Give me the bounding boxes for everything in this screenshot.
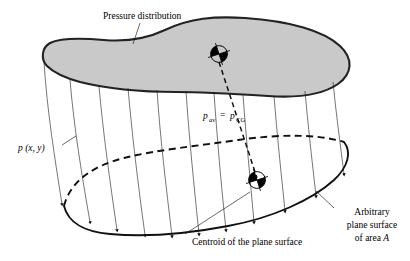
pressure-line <box>186 91 199 234</box>
arbitrary-plane-area-prefix: of area <box>355 233 383 243</box>
plane-surface-hidden-edge <box>64 136 344 206</box>
pressure-line <box>99 86 117 230</box>
pressure-line <box>243 95 254 222</box>
pressure-distribution-diagram: Pressure distribution p (x, y) p av = p … <box>0 0 410 261</box>
p-cg-symbol: p <box>229 111 235 121</box>
pressure-line <box>70 80 90 222</box>
arbitrary-plane-line1: Arbitrary <box>354 207 390 217</box>
pressure-field-label: p (x, y) <box>17 143 45 154</box>
pressure-line <box>157 90 172 236</box>
pressure-line <box>333 82 344 174</box>
arbitrary-plane-line2: plane surface <box>347 220 397 230</box>
p-av-symbol: p <box>202 111 208 121</box>
pressure-distribution-label: Pressure distribution <box>103 11 182 21</box>
pressure-line <box>44 62 62 204</box>
p-av-subscript: av <box>209 116 215 123</box>
p-av-equals-p-cg-label: p av = p CG <box>202 110 245 122</box>
pressure-line <box>274 96 285 211</box>
pressure-line <box>128 88 145 235</box>
centroid-caption-label: Centroid of the plane surface <box>192 237 302 247</box>
pressure-line <box>305 91 316 196</box>
pressure-field-text: p (x, y) <box>17 143 45 154</box>
arbitrary-plane-line3: of area A <box>355 233 389 243</box>
pressure-blob-shape <box>43 17 350 96</box>
arbitrary-plane-area-symbol: A <box>382 233 389 243</box>
p-cg-subscript: CG <box>236 116 245 123</box>
centroid-quadrant <box>246 172 257 183</box>
arbitrary-plane-label: Arbitrary plane surface of area A <box>347 207 397 243</box>
equals-sign: = <box>220 110 225 120</box>
centroid-quadrant <box>257 177 268 188</box>
centroid-marker-lower <box>243 166 272 195</box>
figure-container: Pressure distribution p (x, y) p av = p … <box>0 0 410 261</box>
leader-pressure-field <box>62 136 76 145</box>
leader-arbitrary-plane <box>316 191 334 208</box>
pressure-distribution-blob <box>43 17 350 96</box>
